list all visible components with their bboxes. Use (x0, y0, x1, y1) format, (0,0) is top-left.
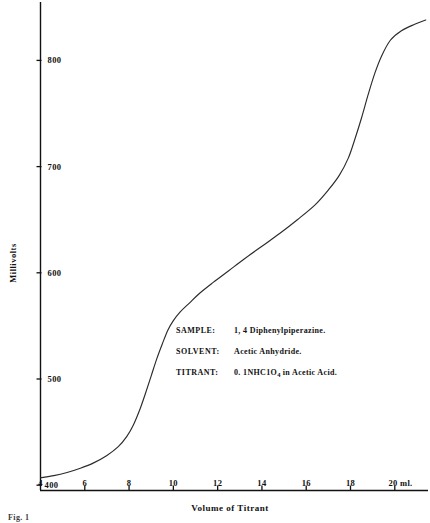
x-tick-label: 20 ml. (389, 478, 413, 488)
x-axis-title: Volume of Titrant (120, 503, 340, 513)
titrant-formula-prefix: 0. 1NHC1O (234, 368, 277, 377)
titration-plot (0, 0, 430, 523)
x-tick-label: 10 (169, 478, 178, 488)
x-tick-label: 6 (83, 478, 88, 488)
titration-figure: 800700600500400 468101214161820 ml. Mill… (0, 0, 430, 523)
y-tick-label: 700 (48, 162, 62, 172)
sample-label: SAMPLE: (176, 320, 234, 341)
titrant-formula-suffix: in Acetic Acid. (280, 368, 337, 377)
y-axis-title: Millivolts (8, 228, 18, 298)
annotation-row-titrant: TITRANT: 0. 1NHC1O4 in Acetic Acid. (176, 362, 337, 385)
titrant-value: 0. 1NHC1O4 in Acetic Acid. (234, 362, 337, 385)
y-tick-label: 500 (48, 374, 62, 384)
x-tick-label: 18 (346, 478, 355, 488)
x-tick-label: 16 (302, 478, 311, 488)
x-tick-label: 12 (213, 478, 222, 488)
solvent-value: Acetic Anhydride. (234, 341, 302, 362)
annotation-row-solvent: SOLVENT: Acetic Anhydride. (176, 341, 337, 362)
x-tick-label: 8 (127, 478, 132, 488)
titration-curve (41, 20, 426, 478)
figure-caption: Fig. 1 (8, 513, 30, 522)
y-tick-label: 400 (45, 480, 59, 490)
x-tick-label: 14 (257, 478, 266, 488)
titrant-label: TITRANT: (176, 362, 234, 383)
solvent-label: SOLVENT: (176, 341, 234, 362)
sample-value: 1, 4 Diphenylpiperazine. (234, 320, 326, 341)
y-tick-label: 600 (48, 268, 62, 278)
x-tick-label: 4 (38, 478, 43, 488)
sample-info-block: SAMPLE: 1, 4 Diphenylpiperazine. SOLVENT… (176, 320, 337, 385)
y-tick-label: 800 (48, 55, 62, 65)
annotation-row-sample: SAMPLE: 1, 4 Diphenylpiperazine. (176, 320, 337, 341)
